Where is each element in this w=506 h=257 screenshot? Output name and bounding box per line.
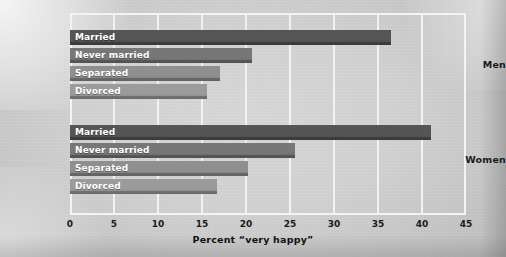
x-tick-label-45: 45 <box>460 219 473 229</box>
bar-label: Separated <box>75 161 128 176</box>
bar-label: Married <box>75 125 115 140</box>
bar-label: Separated <box>75 66 128 81</box>
bar-row: Separated <box>70 161 466 176</box>
x-tick-label-15: 15 <box>196 219 209 229</box>
bar-row: Married <box>70 125 466 140</box>
bar-row: Divorced <box>70 179 466 194</box>
bar-row: Never married <box>70 143 466 158</box>
bar-label: Never married <box>75 48 149 63</box>
plot-area: MarriedNever marriedSeparatedDivorcedMar… <box>70 13 466 215</box>
bar-row: Divorced <box>70 84 466 99</box>
bar-row: Separated <box>70 66 466 81</box>
bar-row: Never married <box>70 48 466 63</box>
x-axis-title: Percent “very happy” <box>0 234 506 245</box>
bar-label: Never married <box>75 143 149 158</box>
x-tick-label-35: 35 <box>372 219 385 229</box>
chart-figure: MarriedNever marriedSeparatedDivorcedMar… <box>0 0 506 257</box>
group-label-women: Women <box>444 154 506 165</box>
x-tick-label-5: 5 <box>111 219 117 229</box>
bar-men-married <box>70 30 391 45</box>
x-tick-label-0: 0 <box>67 219 73 229</box>
bar-row: Married <box>70 30 466 45</box>
bar-label: Divorced <box>75 84 121 99</box>
x-tick-label-20: 20 <box>240 219 253 229</box>
bar-label: Divorced <box>75 179 121 194</box>
x-tick-label-30: 30 <box>328 219 341 229</box>
x-tick-label-40: 40 <box>416 219 429 229</box>
bar-label: Married <box>75 30 115 45</box>
x-tick-label-25: 25 <box>284 219 297 229</box>
bar-women-married <box>70 125 431 140</box>
x-tick-label-10: 10 <box>152 219 165 229</box>
group-label-men: Men <box>444 59 506 70</box>
